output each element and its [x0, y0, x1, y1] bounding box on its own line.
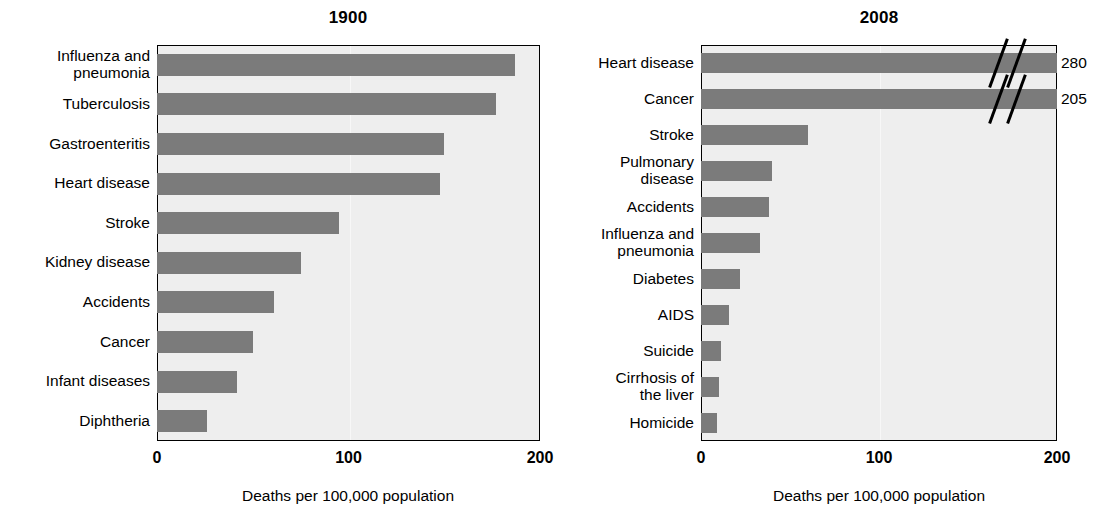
category-label-left-4: Stroke — [0, 214, 150, 231]
category-label-right-6: Diabetes — [534, 270, 694, 287]
category-label-left-5: Kidney disease — [0, 253, 150, 270]
bar-value-label-1: 205 — [1061, 90, 1087, 108]
category-label-right-10: Homicide — [534, 414, 694, 431]
category-label-left-6: Accidents — [0, 293, 150, 310]
bar-value-label-0: 280 — [1061, 54, 1087, 72]
panel-2008-title: 2008 — [819, 8, 939, 28]
bar-left-9 — [157, 410, 207, 432]
bar-right-7 — [701, 305, 729, 325]
panel-2008: 2008 Heart diseaseCancerStrokePulmonary … — [560, 0, 1107, 526]
category-label-right-4: Accidents — [534, 198, 694, 215]
bar-left-1 — [157, 93, 496, 115]
x-tick-right-100: 100 — [849, 449, 909, 467]
bar-left-4 — [157, 212, 339, 234]
x-tick-left-0: 0 — [127, 449, 187, 467]
x-axis-title-2008: Deaths per 100,000 population — [729, 487, 1029, 505]
bar-right-4 — [701, 197, 769, 217]
category-label-left-3: Heart disease — [0, 174, 150, 191]
bar-right-0 — [701, 53, 1057, 73]
bar-left-8 — [157, 371, 237, 393]
bar-right-2 — [701, 125, 808, 145]
bar-right-6 — [701, 269, 740, 289]
category-label-right-7: AIDS — [534, 306, 694, 323]
bar-left-0 — [157, 54, 515, 76]
bar-right-10 — [701, 413, 717, 433]
x-tick-left-100: 100 — [319, 449, 379, 467]
bar-right-8 — [701, 341, 721, 361]
bar-left-6 — [157, 291, 274, 313]
x-tick-right-200: 200 — [1027, 449, 1087, 467]
category-label-right-0: Heart disease — [534, 54, 694, 71]
category-label-left-2: Gastroenteritis — [0, 135, 150, 152]
bar-left-3 — [157, 173, 440, 195]
category-label-left-7: Cancer — [0, 333, 150, 350]
category-label-left-0: Influenza and pneumonia — [0, 47, 150, 81]
bar-left-7 — [157, 331, 253, 353]
two-panel-bar-chart-figure: 1900 Influenza and pneumoniaTuberculosis… — [0, 0, 1107, 526]
panel-1900: 1900 Influenza and pneumoniaTuberculosis… — [0, 0, 560, 526]
category-label-right-3: Pulmonary disease — [534, 153, 694, 187]
bar-left-2 — [157, 133, 444, 155]
bar-right-1 — [701, 89, 1057, 109]
panel-1900-title: 1900 — [288, 8, 408, 28]
category-label-left-1: Tuberculosis — [0, 95, 150, 112]
category-label-right-8: Suicide — [534, 342, 694, 359]
bar-right-3 — [701, 161, 772, 181]
bar-left-5 — [157, 252, 301, 274]
bar-right-9 — [701, 377, 719, 397]
category-label-right-5: Influenza and pneumonia — [534, 225, 694, 259]
category-label-left-9: Diphtheria — [0, 412, 150, 429]
category-label-right-2: Stroke — [534, 126, 694, 143]
x-tick-right-0: 0 — [671, 449, 731, 467]
bar-right-5 — [701, 233, 760, 253]
x-axis-title-1900: Deaths per 100,000 population — [198, 487, 498, 505]
category-label-left-8: Infant diseases — [0, 372, 150, 389]
category-label-right-1: Cancer — [534, 90, 694, 107]
category-label-right-9: Cirrhosis of the liver — [534, 369, 694, 403]
